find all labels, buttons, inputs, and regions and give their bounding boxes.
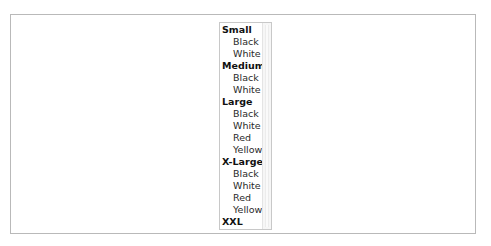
listbox-scrollbar[interactable] [262,23,271,229]
option-x-large-white[interactable]: White [220,180,261,192]
optgroup-medium: Medium [220,60,261,72]
option-large-yellow[interactable]: Yellow [220,144,261,156]
option-small-white[interactable]: White [220,48,261,60]
option-x-large-red[interactable]: Red [220,192,261,204]
size-color-listbox[interactable]: Small Black White Medium Black White Lar… [219,22,272,230]
optgroup-xxl: XXL [220,216,261,228]
listbox-options: Small Black White Medium Black White Lar… [220,23,261,229]
option-large-white[interactable]: White [220,120,261,132]
optgroup-x-large: X-Large [220,156,261,168]
option-medium-black[interactable]: Black [220,72,261,84]
optgroup-small: Small [220,24,261,36]
option-x-large-black[interactable]: Black [220,168,261,180]
option-large-red[interactable]: Red [220,132,261,144]
option-medium-white[interactable]: White [220,84,261,96]
option-xxl-black[interactable]: Black [220,228,261,230]
option-small-black[interactable]: Black [220,36,261,48]
option-x-large-yellow[interactable]: Yellow [220,204,261,216]
option-large-black[interactable]: Black [220,108,261,120]
optgroup-large: Large [220,96,261,108]
scrollbar-thumb[interactable] [265,25,269,227]
